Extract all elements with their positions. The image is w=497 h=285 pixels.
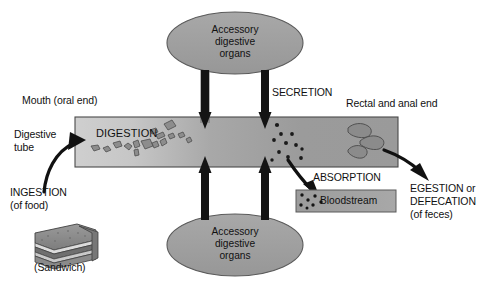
ingestion-label-line1: INGESTION: [10, 186, 67, 198]
egestion-label-line2: DEFECATION: [410, 195, 476, 207]
accessory-organs-bottom-line2: digestive: [175, 238, 295, 251]
ingestion-label-line2: (of food): [10, 199, 48, 211]
accessory-organs-bottom-line3: organs: [175, 250, 295, 263]
digestive-tube-band: [75, 117, 398, 167]
accessory-organs-top-line3: organs: [175, 48, 295, 61]
digestive-tube-label-line1: Digestive: [14, 128, 56, 140]
mouth-label: Mouth (oral end): [22, 94, 97, 106]
accessory-organs-bottom-line1: Accessory: [175, 226, 295, 239]
digestive-system-diagram: g system: [0, 0, 497, 285]
absorption-label: ABSORPTION: [313, 171, 381, 183]
digestion-label: DIGESTION: [96, 127, 157, 139]
digestive-tube-label-line2: tube: [14, 141, 34, 153]
accessory-organs-top-line1: Accessory: [175, 24, 295, 37]
secretion-label: SECRETION: [272, 86, 332, 98]
rectal-end-label: Rectal and anal end: [346, 97, 438, 109]
egestion-label-line1: EGESTION or: [410, 182, 475, 194]
egestion-label-line3: (of feces): [410, 208, 453, 220]
accessory-organs-top-line2: digestive: [175, 36, 295, 49]
sandwich-caption: (Sandwich): [34, 261, 86, 273]
bloodstream-label: Bloodstream: [320, 195, 377, 206]
